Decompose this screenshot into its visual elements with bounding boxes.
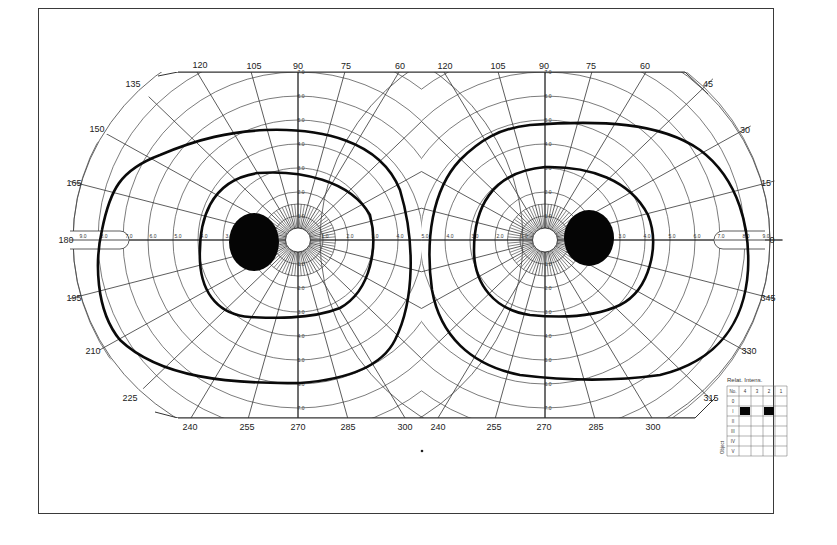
radial-tick-label: 5.0 — [175, 233, 182, 239]
legend-row-label: V — [731, 449, 734, 454]
legend-row-label: IV — [731, 439, 735, 444]
legend-column-header: 4 — [744, 389, 747, 394]
mask-top — [40, 10, 773, 72]
radial-tick-label: 2.0 — [545, 189, 552, 195]
meridian-label: 255 — [486, 422, 501, 432]
legend-row-label: 0 — [732, 399, 735, 404]
meridian-label: 240 — [182, 422, 197, 432]
legend-row-label: II — [732, 419, 735, 424]
meridian-label: 300 — [645, 422, 660, 432]
legend-side-label: Object — [720, 440, 725, 454]
meridian-line — [304, 250, 417, 437]
meridian-line — [179, 250, 292, 437]
meridian-label: 180 — [58, 235, 73, 245]
radial-tick-label: 2.0 — [347, 233, 354, 239]
meridian-line — [554, 79, 713, 232]
meridian-label: 285 — [588, 422, 603, 432]
meridian-label: 105 — [246, 61, 261, 71]
meridian-label: 345 — [760, 293, 775, 303]
legend-filled-cell — [764, 407, 774, 415]
radial-tick-label: 3.0 — [545, 309, 552, 315]
legend-row-label: I — [732, 409, 733, 414]
meridian-label: 210 — [85, 346, 100, 356]
legend-column-header: No. — [729, 389, 736, 394]
radial-tick-label: 3.0 — [619, 233, 626, 239]
meridian-label: 165 — [66, 178, 81, 188]
meridian-label: 105 — [490, 61, 505, 71]
radial-tick-label: 5.0 — [545, 357, 552, 363]
meridian-label: 0 — [769, 235, 774, 245]
meridian-label: 225 — [122, 393, 137, 403]
radial-tick-label: 6.0 — [298, 93, 305, 99]
meridian-degree-labels: 1201059075601351501651801952102252402552… — [58, 60, 775, 432]
meridian-label: 60 — [640, 61, 650, 71]
radial-tick-label: 4.0 — [545, 141, 552, 147]
meridian-label: 315 — [703, 393, 718, 403]
meridian-line — [426, 250, 539, 437]
radial-tick-label: 7.0 — [545, 405, 552, 411]
meridian-label: 150 — [89, 124, 104, 134]
stray-dot — [421, 450, 424, 453]
radial-tick-label: 2.0 — [497, 233, 504, 239]
meridian-label: 75 — [341, 61, 351, 71]
meridian-line — [339, 246, 534, 354]
right-blind-spot — [564, 210, 614, 266]
meridian-label: 15 — [761, 178, 771, 188]
meridian-line — [130, 79, 289, 232]
radial-tick-label: 4.0 — [644, 233, 651, 239]
meridian-label: 120 — [437, 61, 452, 71]
legend-column-header: 1 — [780, 389, 783, 394]
radial-tick-label: 2.0 — [545, 285, 552, 291]
radial-tick-label: 4.0 — [298, 333, 305, 339]
legend-column-header: 2 — [768, 389, 771, 394]
fixation-circle — [286, 228, 311, 252]
meridian-label: 195 — [66, 293, 81, 303]
fixation-circle — [533, 228, 558, 252]
legend-title: Relat. Intens. — [727, 377, 763, 383]
radial-tick-label: 7.0 — [718, 233, 725, 239]
left-blind-spot — [229, 213, 279, 271]
radial-tick-label: 4.0 — [447, 233, 454, 239]
meridian-line — [310, 243, 527, 299]
radial-tick-label: 5.0 — [669, 233, 676, 239]
radial-tick-label: 9.0 — [80, 233, 87, 239]
radial-tick-label: 7.0 — [298, 405, 305, 411]
radial-tick-label: 1.0 — [298, 261, 305, 267]
radial-tick-label: 6.0 — [545, 381, 552, 387]
radial-tick-label: 6.0 — [150, 233, 157, 239]
radial-tick-label: 2.0 — [298, 189, 305, 195]
radial-tick-label: 4.0 — [298, 141, 305, 147]
meridian-label: 135 — [125, 79, 140, 89]
meridian-label: 270 — [536, 422, 551, 432]
radial-tick-label: 1.0 — [545, 261, 552, 267]
legend-filled-cell — [740, 407, 750, 415]
meridian-line — [377, 79, 536, 232]
meridian-line — [316, 243, 533, 299]
visual-field-chart: 9.08.07.06.05.04.03.01.02.03.04.05.04.03… — [0, 0, 837, 545]
meridian-label: 75 — [586, 61, 596, 71]
radial-tick-label: 1.0 — [298, 213, 305, 219]
legend-row-label: III — [731, 429, 735, 434]
radial-tick-label: 2.0 — [298, 285, 305, 291]
meridian-label: 285 — [340, 422, 355, 432]
meridian-line — [307, 79, 466, 232]
radial-tick-label: 3.0 — [298, 165, 305, 171]
radial-tick-label: 5.0 — [298, 357, 305, 363]
chart-outline — [40, 10, 773, 478]
radial-tick-label: 4.0 — [545, 333, 552, 339]
radial-tick-label: 3.0 — [298, 309, 305, 315]
radial-tick-label: 5.0 — [298, 117, 305, 123]
radial-tick-label: 1.0 — [545, 213, 552, 219]
legend-column-header: 3 — [756, 389, 759, 394]
meridian-label: 30 — [740, 125, 750, 135]
meridian-label: 90 — [293, 61, 303, 71]
meridian-label: 330 — [741, 346, 756, 356]
radial-tick-label: 5.0 — [422, 233, 429, 239]
meridian-label: 45 — [703, 79, 713, 89]
meridian-label: 255 — [239, 422, 254, 432]
meridian-label: 60 — [395, 61, 405, 71]
radial-tick-label: 7.0 — [126, 233, 133, 239]
meridian-line — [316, 181, 533, 237]
meridian-label: 270 — [290, 422, 305, 432]
radial-tick-label: 1.0 — [322, 233, 329, 239]
